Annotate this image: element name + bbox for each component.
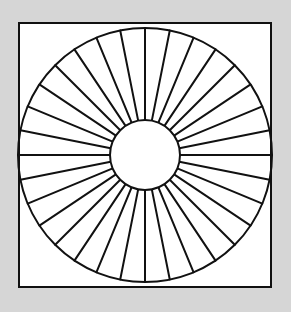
inner-circle: [110, 120, 180, 190]
radial-circle-diagram: [0, 0, 291, 312]
